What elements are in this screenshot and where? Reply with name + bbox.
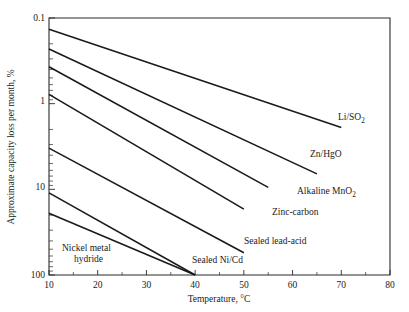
y-tick-label: 0.1 <box>33 13 45 23</box>
x-tick-label: 60 <box>288 280 298 290</box>
series-label-nickel-metal-hydride-line2: hydride <box>74 254 103 264</box>
x-tick-label: 30 <box>142 280 152 290</box>
chart-svg: 10 20 30 40 50 60 70 80 0.1 1 10 100 Tem… <box>0 0 409 312</box>
x-tick-label: 80 <box>385 280 395 290</box>
series-label-nickel-metal-hydride-line1: Nickel metal <box>62 243 111 253</box>
y-tick-label: 100 <box>31 270 46 280</box>
y-axis-title: Approximate capacity loss per month, % <box>6 69 16 224</box>
x-tick-label: 20 <box>93 280 103 290</box>
x-tick-label: 50 <box>239 280 249 290</box>
x-tick-label: 10 <box>44 280 54 290</box>
series-label-zn-hgo: Zn/HgO <box>310 149 342 159</box>
series-label-zinc-carbon: Zinc-carbon <box>272 207 319 217</box>
y-tick-label: 10 <box>36 182 46 192</box>
battery-self-discharge-chart: 10 20 30 40 50 60 70 80 0.1 1 10 100 Tem… <box>0 0 409 312</box>
series-label-sealed-nicd: Sealed Ni/Cd <box>192 255 243 265</box>
series-label-sealed-lead-acid: Sealed lead-acid <box>244 236 307 246</box>
chart-background <box>0 0 409 312</box>
x-tick-label: 70 <box>337 280 347 290</box>
x-axis-title: Temperature, °C <box>188 294 251 304</box>
y-tick-label: 1 <box>40 96 45 106</box>
x-tick-label: 40 <box>190 280 200 290</box>
